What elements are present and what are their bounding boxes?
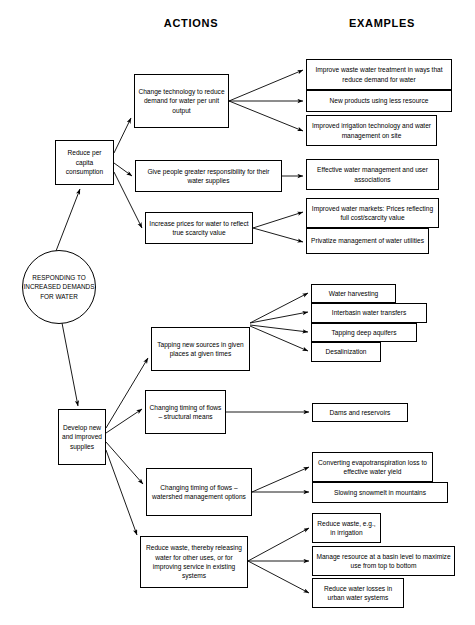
example-slowing-snowmelt-label: Slowing snowmelt in mountains <box>334 488 426 497</box>
example-improved-water-markets: Improved water markets: Prices reflectin… <box>306 198 439 228</box>
example-reduce-waste-irrigation-label: Reduce waste, e.g., in irrigation <box>316 519 377 538</box>
example-reduce-urban-water-losses-label: Reduce water losses in urban water syste… <box>316 584 400 603</box>
action-changing-timing-structural-label: Changing timing of flows – structural me… <box>149 403 222 422</box>
edge-waste-irrigation <box>248 528 309 561</box>
action-tapping-new-sources: Tapping new sources in given places at g… <box>151 327 250 371</box>
example-dams-and-reservoirs-label: Dams and reservoirs <box>330 408 391 417</box>
example-reduce-waste-irrigation: Reduce waste, e.g., in irrigation <box>312 513 381 543</box>
example-improve-waste-water-treatment: Improve waste water treatment in ways th… <box>306 59 452 90</box>
action-give-people-responsibility-label: Give people greater responsibility for t… <box>139 167 278 186</box>
example-improve-waste-water-treatment-label: Improve waste water treatment in ways th… <box>310 65 448 84</box>
example-interbasin-water-transfers: Interbasin water transfers <box>311 303 427 323</box>
example-reduce-urban-water-losses: Reduce water losses in urban water syste… <box>312 578 404 608</box>
branch-develop-supplies: Develop new and improved supplies <box>58 409 106 465</box>
example-water-harvesting: Water harvesting <box>311 284 396 303</box>
example-new-products-less-resource-label: New products using less resource <box>330 96 429 105</box>
edge-tech-improve-treatment <box>229 70 303 101</box>
example-tapping-deep-aquifers: Tapping deep aquifers <box>311 323 417 342</box>
example-effective-water-management-label: Effective water management and user asso… <box>310 165 435 184</box>
edge-prices-water-markets <box>253 212 303 228</box>
branch-reduce-per-capita: Reduce per capita consumption <box>55 140 114 185</box>
action-changing-timing-watershed: Changing timing of flows – watershed man… <box>146 468 252 516</box>
example-new-products-less-resource: New products using less resource <box>306 90 452 112</box>
root-node: RESPONDING TO INCREASED DEMANDS FOR WATE… <box>22 250 96 324</box>
edge-reduce-give-people <box>114 163 132 176</box>
branch-reduce-per-capita-label: Reduce per capita consumption <box>59 148 110 176</box>
action-increase-prices-label: Increase prices for water to reflect tru… <box>149 219 249 238</box>
edge-waste-urban <box>248 561 309 593</box>
edge-develop-timing-watershed <box>106 442 143 484</box>
example-water-harvesting-label: Water harvesting <box>329 289 379 298</box>
example-manage-resource-basin-label: Manage resource at a basin level to maxi… <box>316 552 451 571</box>
edge-tapping-interbasin <box>250 312 308 323</box>
example-converting-evapotranspiration: Converting evapotranspiration loss to ef… <box>312 452 433 482</box>
example-improved-irrigation-technology-label: Improved irrigation technology and water… <box>310 121 433 140</box>
edge-root-reduce <box>56 189 80 251</box>
example-effective-water-management: Effective water management and user asso… <box>306 159 439 190</box>
example-desalinization: Desalinization <box>311 342 381 362</box>
edge-prices-privatize <box>253 228 303 242</box>
edge-develop-reduce-waste <box>106 450 137 535</box>
action-reduce-waste: Reduce waste, thereby releasing water fo… <box>140 536 248 588</box>
action-reduce-waste-label: Reduce waste, thereby releasing water fo… <box>144 543 244 580</box>
edge-tech-irrigation <box>229 101 303 131</box>
example-slowing-snowmelt: Slowing snowmelt in mountains <box>312 482 448 503</box>
branch-develop-supplies-label: Develop new and improved supplies <box>62 423 102 451</box>
action-changing-timing-watershed-label: Changing timing of flows – watershed man… <box>150 483 248 502</box>
example-improved-irrigation-technology: Improved irrigation technology and water… <box>306 115 437 146</box>
example-improved-water-markets-label: Improved water markets: Prices reflectin… <box>310 204 435 223</box>
edge-watershed-evapotranspiration <box>252 467 309 492</box>
action-increase-prices: Increase prices for water to reflect tru… <box>145 212 253 244</box>
action-changing-timing-structural: Changing timing of flows – structural me… <box>145 390 226 434</box>
edge-tapping-harvesting <box>250 293 308 323</box>
example-tapping-deep-aquifers-label: Tapping deep aquifers <box>332 328 397 337</box>
edge-develop-tapping <box>106 358 148 428</box>
flow-diagram: ACTIONS EXAMPLES RESPONDING TO INCREASED… <box>0 0 475 625</box>
edge-develop-timing-structural <box>106 409 142 433</box>
example-interbasin-water-transfers-label: Interbasin water transfers <box>332 308 406 317</box>
example-desalinization-label: Desalinization <box>325 347 366 356</box>
edge-root-develop <box>62 323 78 406</box>
root-node-label: RESPONDING TO INCREASED DEMANDS FOR WATE… <box>23 273 95 302</box>
example-dams-and-reservoirs: Dams and reservoirs <box>312 403 408 422</box>
edge-tapping-aquifers <box>250 325 308 332</box>
example-manage-resource-basin: Manage resource at a basin level to maxi… <box>312 546 455 576</box>
edge-reduce-change-tech <box>114 118 131 153</box>
action-give-people-responsibility: Give people greater responsibility for t… <box>135 160 282 192</box>
example-converting-evapotranspiration-label: Converting evapotranspiration loss to ef… <box>316 458 429 477</box>
edge-tapping-desalinization <box>250 326 308 351</box>
action-tapping-new-sources-label: Tapping new sources in given places at g… <box>155 340 246 359</box>
action-change-technology: Change technology to reduce demand for w… <box>134 74 229 128</box>
action-change-technology-label: Change technology to reduce demand for w… <box>138 87 225 115</box>
example-privatize-management-label: Privatize management of water utilities <box>311 236 424 245</box>
example-privatize-management: Privatize management of water utilities <box>306 228 429 254</box>
